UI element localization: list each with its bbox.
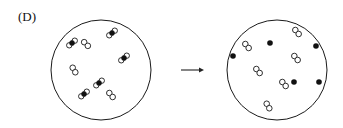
atom-b: [313, 43, 319, 49]
atom-b: [230, 53, 236, 59]
arrow-head-icon: [199, 68, 204, 73]
molecule-aa: [254, 66, 263, 76]
atom-b: [267, 40, 273, 46]
molecule-aa: [280, 79, 289, 89]
left-container: [51, 20, 151, 120]
molecule-ab: [79, 89, 90, 99]
atom-b: [316, 79, 322, 85]
right-circle: [227, 20, 327, 120]
right-container: [227, 20, 327, 120]
molecule-ab: [67, 38, 78, 48]
molecule-ab: [107, 28, 118, 38]
reaction-arrow: [181, 68, 204, 73]
molecule-ab: [119, 53, 130, 63]
molecule-aa: [243, 41, 252, 51]
left-circle: [51, 20, 151, 120]
reaction-diagram: [0, 0, 343, 128]
atom-b: [291, 79, 297, 85]
molecule-aa: [264, 101, 272, 111]
molecule-aa: [107, 90, 116, 100]
molecule-aa: [70, 65, 78, 75]
molecule-ab: [94, 78, 105, 88]
molecule-aa: [293, 27, 302, 37]
molecule-aa: [292, 53, 301, 63]
molecule-aa: [81, 39, 90, 48]
